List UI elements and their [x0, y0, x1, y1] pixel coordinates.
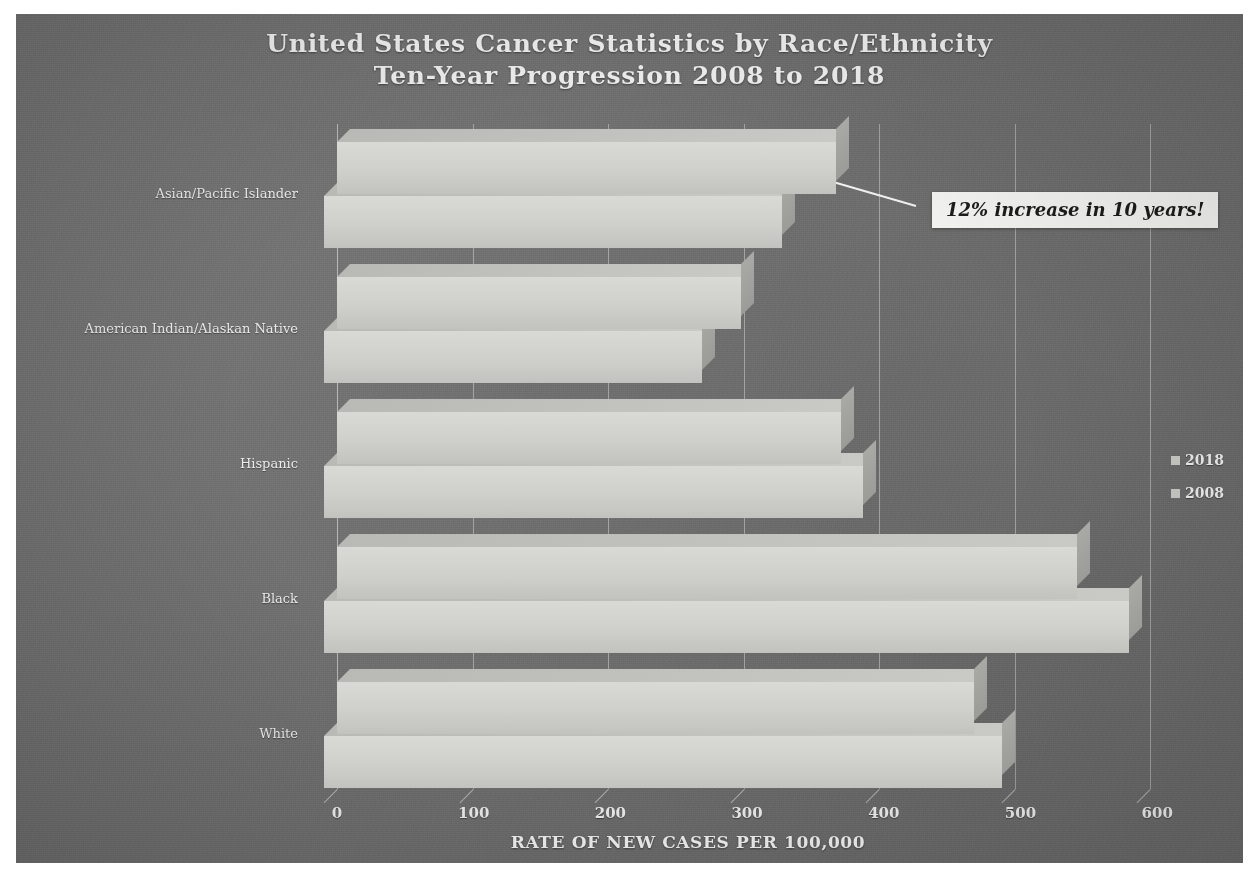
- legend-item-2018[interactable]: 2018: [1171, 452, 1243, 468]
- legend-label: 2008: [1185, 485, 1224, 501]
- bar-2018: [337, 277, 741, 329]
- bar-2018: [337, 547, 1077, 599]
- legend-label: 2018: [1185, 452, 1224, 468]
- value-axis-tick-label: 300: [731, 804, 762, 822]
- value-axis-ticks: 0100200300400500600: [308, 804, 1188, 828]
- bar-front-face: [337, 142, 836, 194]
- bar-group: [324, 547, 1204, 657]
- bar-top-face: [337, 129, 849, 142]
- value-axis-tick-label: 0: [332, 804, 342, 822]
- bar-group: [324, 412, 1204, 522]
- value-axis-tick-label: 600: [1142, 804, 1173, 822]
- bar-side-face: [863, 440, 876, 505]
- bar-group: [324, 682, 1204, 792]
- bar-front-face: [337, 277, 741, 329]
- legend-swatch-icon: [1171, 456, 1180, 465]
- bar-top-face: [337, 264, 754, 277]
- chart-panel: United States Cancer Statistics by Race/…: [16, 14, 1243, 863]
- bar-2008: [324, 466, 863, 518]
- legend-item-2008[interactable]: 2008: [1171, 485, 1243, 501]
- bar-top-face: [337, 669, 987, 682]
- value-axis-title: RATE OF NEW CASES PER 100,000: [308, 832, 1068, 852]
- bar-2008: [324, 196, 782, 248]
- bar-2018: [337, 412, 841, 464]
- bar-side-face: [841, 386, 854, 451]
- bar-front-face: [324, 466, 863, 518]
- chart-screenshot: United States Cancer Statistics by Race/…: [0, 0, 1257, 880]
- bar-front-face: [337, 682, 974, 734]
- value-axis-tick-label: 200: [595, 804, 626, 822]
- bar-top-face: [337, 534, 1090, 547]
- bar-side-face: [974, 656, 987, 721]
- bar-side-face: [836, 116, 849, 181]
- bar-2008: [324, 736, 1002, 788]
- category-axis-labels: Asian/Pacific IslanderAmerican Indian/Al…: [36, 124, 298, 799]
- category-label: American Indian/Alaskan Native: [85, 321, 298, 336]
- bar-group: [324, 277, 1204, 387]
- chart-legend: 20182008: [1171, 452, 1243, 518]
- bar-side-face: [1002, 710, 1015, 775]
- bar-2018: [337, 142, 836, 194]
- bar-front-face: [337, 547, 1077, 599]
- bar-front-face: [324, 601, 1129, 653]
- category-label: Black: [261, 591, 298, 606]
- bar-side-face: [1129, 575, 1142, 640]
- bar-2018: [337, 682, 974, 734]
- value-axis-tick-label: 500: [1005, 804, 1036, 822]
- chart-title-line-1: United States Cancer Statistics by Race/…: [266, 29, 992, 58]
- chart-title: United States Cancer Statistics by Race/…: [16, 28, 1243, 91]
- bar-front-face: [324, 736, 1002, 788]
- bar-2008: [324, 331, 702, 383]
- bar-front-face: [324, 331, 702, 383]
- chart-title-line-2: Ten-Year Progression 2008 to 2018: [16, 60, 1243, 92]
- bar-side-face: [1077, 521, 1090, 586]
- category-label: White: [259, 726, 298, 741]
- bar-front-face: [337, 412, 841, 464]
- bar-side-face: [741, 251, 754, 316]
- category-label: Asian/Pacific Islander: [156, 186, 298, 201]
- bar-front-face: [324, 196, 782, 248]
- legend-swatch-icon: [1171, 489, 1180, 498]
- category-label: Hispanic: [240, 456, 298, 471]
- annotation-callout: 12% increase in 10 years!: [932, 192, 1218, 228]
- bar-2008: [324, 601, 1129, 653]
- bar-top-face: [337, 399, 854, 412]
- value-axis-tick-label: 400: [868, 804, 899, 822]
- value-axis-tick-label: 100: [458, 804, 489, 822]
